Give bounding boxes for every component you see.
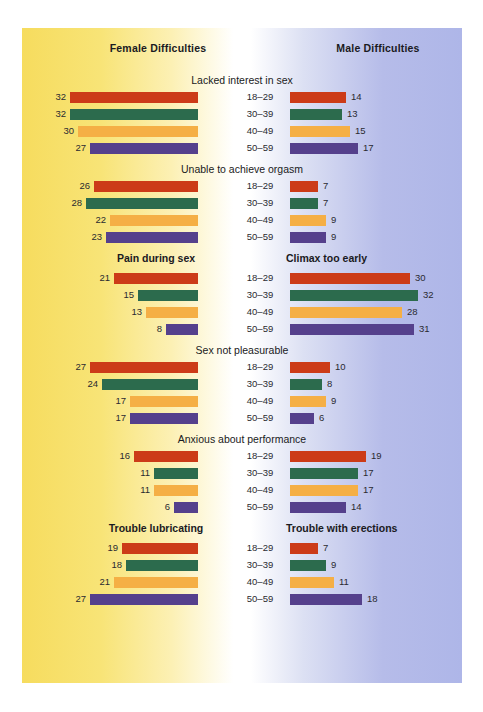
- chart-row: 1140–4917: [40, 482, 444, 499]
- bar-male: [290, 215, 326, 226]
- age-group-label: 40–49: [234, 395, 286, 406]
- value-label-female: 18: [96, 559, 122, 572]
- chart-row: 2618–297: [40, 178, 444, 195]
- column-headers: Female Difficulties Male Difficulties: [40, 42, 444, 68]
- value-label-female: 26: [64, 180, 90, 193]
- value-label-female: 16: [104, 450, 130, 463]
- bar-male: [290, 560, 326, 571]
- value-label-female: 11: [124, 467, 150, 480]
- age-group-label: 50–59: [234, 593, 286, 604]
- chart-row: 2118–2930: [40, 270, 444, 287]
- bar-male: [290, 232, 326, 243]
- bar-female: [90, 594, 198, 605]
- bar-male: [290, 485, 358, 496]
- bar-male: [290, 143, 358, 154]
- section-title: Unable to achieve orgasm: [40, 163, 444, 178]
- age-group-label: 18–29: [234, 180, 286, 191]
- age-group-label: 40–49: [234, 484, 286, 495]
- chart-row: 2830–397: [40, 195, 444, 212]
- value-label-male: 13: [347, 108, 358, 119]
- bar-female: [126, 560, 198, 571]
- chart-row: 2750–5918: [40, 591, 444, 608]
- bar-male: [290, 543, 318, 554]
- bar-female: [106, 232, 198, 243]
- bar-female: [90, 362, 198, 373]
- value-label-female: 19: [92, 542, 118, 555]
- bar-female: [114, 577, 198, 588]
- value-label-male: 10: [335, 361, 346, 372]
- value-label-male: 9: [331, 395, 336, 406]
- age-group-label: 18–29: [234, 450, 286, 461]
- value-label-female: 28: [56, 197, 82, 210]
- chart-section: Sex not pleasurable2718–29102430–3981740…: [40, 344, 444, 427]
- sections-container: Lacked interest in sex3218–29143230–3913…: [40, 74, 444, 608]
- bar-female: [94, 181, 198, 192]
- bar-female: [154, 468, 198, 479]
- value-label-male: 17: [363, 142, 374, 153]
- bar-female: [114, 273, 198, 284]
- value-label-female: 8: [136, 323, 162, 336]
- age-group-label: 30–39: [234, 467, 286, 478]
- age-group-label: 50–59: [234, 142, 286, 153]
- chart-row: 2240–499: [40, 212, 444, 229]
- bar-male: [290, 290, 418, 301]
- chart-row: 2718–2910: [40, 359, 444, 376]
- age-group-label: 40–49: [234, 214, 286, 225]
- chart-row: 1618–2919: [40, 448, 444, 465]
- age-group-label: 18–29: [234, 91, 286, 102]
- value-label-female: 21: [84, 576, 110, 589]
- chart-row: 2430–398: [40, 376, 444, 393]
- bar-female: [174, 502, 198, 513]
- value-label-female: 30: [48, 125, 74, 138]
- value-label-male: 15: [355, 125, 366, 136]
- section-title: Lacked interest in sex: [40, 74, 444, 89]
- age-group-label: 50–59: [234, 501, 286, 512]
- section-title-pair: Pain during sexClimax too early: [40, 252, 444, 270]
- age-group-label: 50–59: [234, 323, 286, 334]
- value-label-female: 15: [108, 289, 134, 302]
- value-label-female: 32: [40, 108, 66, 121]
- value-label-female: 27: [60, 361, 86, 374]
- value-label-male: 6: [319, 412, 324, 423]
- value-label-male: 17: [363, 467, 374, 478]
- bar-female: [122, 543, 198, 554]
- section-title-pair: Trouble lubricatingTrouble with erection…: [40, 522, 444, 540]
- bar-male: [290, 468, 358, 479]
- value-label-male: 28: [407, 306, 418, 317]
- chart-row: 2350–599: [40, 229, 444, 246]
- section-title-female: Pain during sex: [40, 252, 272, 264]
- bar-female: [86, 198, 198, 209]
- bar-male: [290, 126, 350, 137]
- bar-male: [290, 109, 342, 120]
- bar-female: [90, 143, 198, 154]
- chart-section: Anxious about performance1618–29191130–3…: [40, 433, 444, 516]
- chart-row: 3230–3913: [40, 106, 444, 123]
- bar-female: [70, 109, 198, 120]
- chart-section: Lacked interest in sex3218–29143230–3913…: [40, 74, 444, 157]
- value-label-female: 27: [60, 142, 86, 155]
- bar-female: [70, 92, 198, 103]
- age-group-label: 18–29: [234, 272, 286, 283]
- age-group-label: 40–49: [234, 306, 286, 317]
- age-group-label: 40–49: [234, 125, 286, 136]
- value-label-male: 9: [331, 231, 336, 242]
- age-group-label: 30–39: [234, 378, 286, 389]
- bar-male: [290, 181, 318, 192]
- value-label-male: 9: [331, 214, 336, 225]
- bar-female: [146, 307, 198, 318]
- bar-male: [290, 451, 366, 462]
- value-label-female: 32: [40, 91, 66, 104]
- chart-row: 3040–4915: [40, 123, 444, 140]
- bar-female: [110, 215, 198, 226]
- chart-row: 650–5914: [40, 499, 444, 516]
- column-header-male: Male Difficulties: [276, 42, 480, 54]
- bar-male: [290, 577, 334, 588]
- column-header-female: Female Difficulties: [40, 42, 276, 54]
- value-label-male: 31: [419, 323, 430, 334]
- value-label-male: 7: [323, 542, 328, 553]
- section-title-male: Climax too early: [286, 252, 367, 264]
- chart-section: Trouble lubricatingTrouble with erection…: [40, 522, 444, 608]
- bar-male: [290, 396, 326, 407]
- section-title: Sex not pleasurable: [40, 344, 444, 359]
- bar-male: [290, 379, 322, 390]
